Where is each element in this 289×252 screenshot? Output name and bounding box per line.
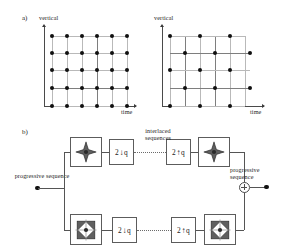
sample-dot — [168, 104, 172, 108]
left-plot-time-axis-label: time — [121, 108, 132, 115]
lower-decimator-box[interactable]: 2↓q — [112, 217, 137, 243]
right-plot-y-axis-arrowhead — [160, 24, 164, 27]
right-plot-time-axis-label: time — [250, 108, 261, 115]
sample-dot — [213, 51, 217, 55]
gridline-h — [52, 106, 127, 107]
gridline-v — [245, 36, 246, 106]
sample-dot — [213, 86, 217, 90]
diamond-lowpass-filter-icon — [203, 141, 225, 163]
sample-dot — [95, 68, 99, 72]
output-progressive-sequence-label: progressive sequence — [230, 166, 280, 180]
sample-dot — [183, 86, 187, 90]
sample-dot — [50, 68, 54, 72]
sample-dot — [168, 34, 172, 38]
sample-dot — [80, 104, 84, 108]
lower-interpolator-suffix: q — [186, 226, 190, 235]
sample-dot — [110, 68, 114, 72]
wire-input — [38, 188, 64, 189]
diamond-highpass-filter-icon — [75, 219, 97, 241]
upper-decimator-box[interactable]: 2↓q — [109, 139, 134, 165]
progressive-sampling-plot: vertical time — [30, 14, 140, 114]
sample-dot — [125, 68, 129, 72]
panel-b-tag: b) — [22, 128, 28, 136]
upper-interpolator-suffix: q — [181, 148, 185, 157]
sample-dot — [248, 86, 252, 90]
wire-upper-a2d — [102, 152, 109, 153]
sample-dot — [125, 34, 129, 38]
lower-interlaced-link — [137, 230, 171, 231]
left-plot-y-axis-arrowhead — [42, 24, 46, 27]
sample-dot — [125, 51, 129, 55]
sample-dot — [50, 104, 54, 108]
diamond-highpass-filter-icon — [209, 219, 231, 241]
upper-interlaced-link — [134, 152, 166, 153]
interlaced-sampling-plot: vertical time — [148, 14, 268, 114]
wire-upper-d2s — [191, 152, 198, 153]
left-plot-x-axis-arrowhead — [134, 104, 137, 108]
wire-upper-out — [230, 152, 244, 153]
sample-dot — [80, 86, 84, 90]
sample-dot — [198, 34, 202, 38]
figure-root: a) vertical time — [0, 0, 289, 252]
lower-synthesis-filter-box[interactable] — [204, 214, 236, 245]
sample-dot — [228, 34, 232, 38]
input-progressive-sequence-label: progressive sequence — [14, 172, 70, 179]
sample-dot — [110, 104, 114, 108]
left-plot-y-axis — [44, 27, 45, 107]
gridline-v — [215, 36, 216, 106]
lower-interpolator-box[interactable]: 2↑q — [171, 217, 196, 243]
diamond-lowpass-filter-icon — [75, 141, 97, 163]
sample-dot — [168, 68, 172, 72]
gridline-h — [170, 70, 250, 71]
gridline-h — [52, 70, 127, 71]
summing-junction[interactable] — [239, 182, 250, 193]
sample-dot — [50, 51, 54, 55]
panel-a-tag: a) — [22, 14, 27, 22]
sample-dot — [248, 51, 252, 55]
interlaced-sequences-label: interlaced sequences — [132, 127, 184, 141]
sample-dot — [110, 51, 114, 55]
gridline-h — [170, 88, 250, 89]
upper-synthesis-filter-box[interactable] — [198, 137, 230, 167]
sample-dot — [65, 51, 69, 55]
sample-dot — [125, 86, 129, 90]
sample-dot — [183, 51, 187, 55]
gridline-h — [52, 36, 127, 37]
sample-dot — [65, 68, 69, 72]
sample-dot — [198, 104, 202, 108]
sample-dot — [110, 86, 114, 90]
left-plot-vertical-axis-label: vertical — [39, 14, 58, 21]
sample-dot — [198, 68, 202, 72]
sample-dot — [95, 51, 99, 55]
wire-lower-d2s — [196, 230, 204, 231]
lower-analysis-filter-box[interactable] — [70, 214, 102, 245]
sample-dot — [95, 104, 99, 108]
gridline-h — [170, 53, 250, 54]
sample-dot — [228, 104, 232, 108]
wire-input-split — [64, 152, 65, 230]
right-plot-x-axis-arrowhead — [262, 104, 265, 108]
sample-dot — [65, 104, 69, 108]
gridline-v — [185, 36, 186, 106]
gridline-h — [170, 36, 245, 37]
gridline-h — [170, 106, 245, 107]
gridline-h — [52, 53, 127, 54]
upper-decimator-suffix: q — [124, 148, 128, 157]
sample-dot — [228, 68, 232, 72]
sample-dot — [80, 34, 84, 38]
wire-lower-a2d — [102, 230, 112, 231]
upper-analysis-filter-box[interactable] — [70, 137, 102, 167]
sample-dot — [50, 86, 54, 90]
output-node-dot — [264, 185, 269, 190]
sample-dot — [95, 34, 99, 38]
sample-dot — [95, 86, 99, 90]
sample-dot — [50, 34, 54, 38]
sample-dot — [80, 51, 84, 55]
sample-dot — [65, 34, 69, 38]
right-plot-y-axis — [162, 27, 163, 107]
sample-dot — [80, 68, 84, 72]
sample-dot — [65, 86, 69, 90]
lower-decimator-suffix: q — [127, 226, 131, 235]
upper-interpolator-box[interactable]: 2↑q — [166, 139, 191, 165]
right-plot-vertical-axis-label: vertical — [154, 14, 173, 21]
